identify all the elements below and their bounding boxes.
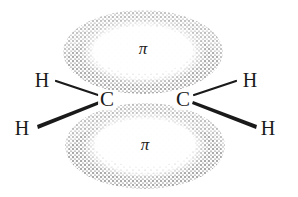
bond-c2-h3 [194, 81, 236, 95]
pi-lobe-top: π [63, 10, 223, 94]
atom-h-lower-right: H [261, 117, 275, 139]
pi-label-bottom: π [141, 135, 150, 154]
atom-h-upper-right: H [243, 69, 257, 91]
atom-c1: C [100, 87, 114, 111]
pi-label-top: π [139, 39, 148, 58]
atom-h-upper-left: H [35, 69, 49, 91]
atom-c2: C [176, 87, 190, 111]
atom-h-lower-left: H [15, 117, 29, 139]
ethylene-pi-bond-diagram: π π C C H H H H [0, 0, 298, 197]
pi-lobe-bottom: π [65, 103, 225, 189]
